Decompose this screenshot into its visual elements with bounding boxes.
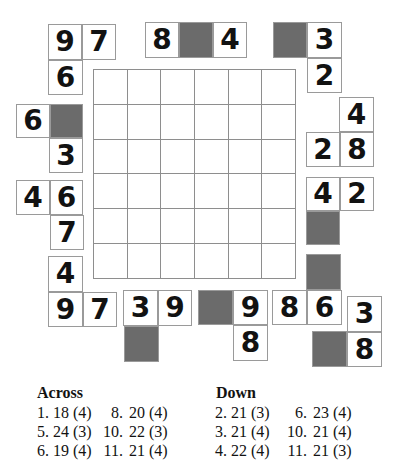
clue-text: 20 (4) <box>129 403 168 422</box>
given-number-cell: 2 <box>340 177 374 211</box>
down-clue: 2.21 (3) <box>215 403 270 422</box>
grid-cell[interactable] <box>195 140 229 175</box>
down-clue: 10.21 (4) <box>285 422 352 441</box>
grid-cell[interactable] <box>229 209 263 244</box>
grid-cell[interactable] <box>262 140 296 175</box>
grid-cell[interactable] <box>128 140 162 175</box>
across-clue: 8.20 (4) <box>101 403 168 422</box>
clue-number: 11. <box>285 441 307 460</box>
grid-cell[interactable] <box>195 70 229 105</box>
grid-cell[interactable] <box>94 105 128 140</box>
given-number-cell: 2 <box>307 58 342 93</box>
grid-cell[interactable] <box>262 244 296 279</box>
clue-section: Across 1.18 (4)5.24 (3)6.19 (4) 8.20 (4)… <box>0 384 393 464</box>
grid-cell[interactable] <box>262 70 296 105</box>
given-number-cell: 6 <box>50 180 83 215</box>
down-heading: Down <box>216 384 256 402</box>
given-number-cell: 7 <box>82 24 116 60</box>
given-number-cell: 6 <box>48 60 83 95</box>
clue-text: 23 (4) <box>313 403 352 422</box>
clue-text: 21 (3) <box>313 441 352 460</box>
grid-cell[interactable] <box>229 105 263 140</box>
grid-cell[interactable] <box>262 209 296 244</box>
puzzle-board: 9768432634674973998863842842 <box>0 0 393 380</box>
grid-cell[interactable] <box>161 105 195 140</box>
grid-cell[interactable] <box>94 244 128 279</box>
grid-cell[interactable] <box>229 140 263 175</box>
clue-text: 18 (4) <box>53 403 92 422</box>
grid-cell[interactable] <box>161 244 195 279</box>
grid-cell[interactable] <box>94 140 128 175</box>
grid-cell[interactable] <box>161 209 195 244</box>
given-number-cell: 4 <box>306 177 340 211</box>
given-number-cell: 9 <box>48 292 83 327</box>
grid-cell[interactable] <box>229 70 263 105</box>
across-clue: 10.22 (3) <box>101 422 168 441</box>
down-clue: 4.22 (4) <box>215 441 270 460</box>
given-number-cell: 6 <box>16 104 50 138</box>
given-number-cell: 2 <box>306 132 340 167</box>
given-number-cell: 8 <box>347 332 382 367</box>
given-number-cell: 8 <box>272 290 307 325</box>
given-number-cell: 4 <box>213 22 247 58</box>
given-number-cell: 9 <box>158 290 192 326</box>
clue-text: 19 (4) <box>53 441 92 460</box>
down-clue: 6.23 (4) <box>285 403 352 422</box>
given-number-cell: 4 <box>339 97 374 132</box>
down-clues-col2: 6.23 (4)10.21 (4)11.21 (3) <box>285 403 352 460</box>
shaded-cell <box>50 104 83 138</box>
grid-cell[interactable] <box>161 140 195 175</box>
grid-cell[interactable] <box>195 244 229 279</box>
clue-number: 4. <box>215 441 225 460</box>
shaded-cell <box>179 22 213 58</box>
grid-cell[interactable] <box>229 174 263 209</box>
grid-cell[interactable] <box>161 174 195 209</box>
grid-cell[interactable] <box>161 70 195 105</box>
given-number-cell: 9 <box>48 24 82 60</box>
across-clue: 6.19 (4) <box>37 441 92 460</box>
clue-number: 5. <box>37 422 47 441</box>
grid-cell[interactable] <box>94 70 128 105</box>
across-heading: Across <box>37 384 83 402</box>
shaded-cell <box>273 22 307 58</box>
given-number-cell: 3 <box>307 22 342 58</box>
clue-text: 24 (3) <box>53 422 92 441</box>
shaded-cell <box>312 331 347 367</box>
given-number-cell: 8 <box>233 325 268 361</box>
given-number-cell: 8 <box>340 132 374 167</box>
grid-cell[interactable] <box>94 209 128 244</box>
clue-number: 1. <box>37 403 47 422</box>
grid-cell[interactable] <box>195 174 229 209</box>
grid-cell[interactable] <box>128 244 162 279</box>
given-number-cell: 3 <box>49 138 83 173</box>
clue-text: 21 (4) <box>313 422 352 441</box>
given-number-cell: 4 <box>16 180 50 215</box>
grid-cell[interactable] <box>128 209 162 244</box>
clue-number: 10. <box>101 422 123 441</box>
grid-cell[interactable] <box>128 70 162 105</box>
grid-cell[interactable] <box>262 105 296 140</box>
grid-cell[interactable] <box>94 174 128 209</box>
shaded-cell <box>198 290 233 325</box>
grid-cell[interactable] <box>229 244 263 279</box>
across-clues-col2: 8.20 (4)10.22 (3)11.21 (4) <box>101 403 168 460</box>
grid-cell[interactable] <box>262 174 296 209</box>
answer-grid <box>93 69 296 279</box>
clue-number: 3. <box>215 422 225 441</box>
grid-cell[interactable] <box>128 105 162 140</box>
given-number-cell: 7 <box>50 215 84 250</box>
given-number-cell: 9 <box>233 290 268 325</box>
shaded-cell <box>306 211 340 245</box>
down-clues-col1: 2.21 (3)3.21 (4)4.22 (4) <box>215 403 270 460</box>
across-clue: 1.18 (4) <box>37 403 92 422</box>
grid-cell[interactable] <box>128 174 162 209</box>
down-clue: 3.21 (4) <box>215 422 270 441</box>
given-number-cell: 3 <box>347 296 382 332</box>
grid-cell[interactable] <box>195 209 229 244</box>
clue-text: 21 (4) <box>231 422 270 441</box>
clue-number: 2. <box>215 403 225 422</box>
clue-number: 11. <box>101 441 123 460</box>
grid-cell[interactable] <box>195 105 229 140</box>
down-clue: 11.21 (3) <box>285 441 352 460</box>
given-number-cell: 4 <box>48 256 83 292</box>
